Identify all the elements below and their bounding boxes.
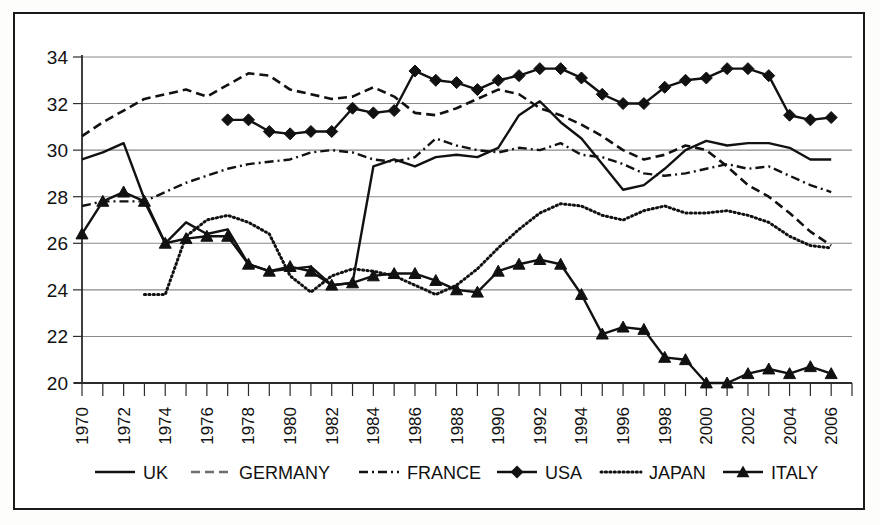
x-tick-label-group-1982: 1982 <box>323 407 342 445</box>
series-marker-usa <box>617 98 629 110</box>
x-tick-label-group-1970: 1970 <box>73 407 92 445</box>
x-tick-label-2002: 2002 <box>739 407 758 445</box>
x-tick-label-1976: 1976 <box>198 407 217 445</box>
series-marker-usa <box>451 77 463 89</box>
x-tick-label-group-1978: 1978 <box>239 407 258 445</box>
x-tick-label-1986: 1986 <box>406 407 425 445</box>
legend-label-france: FRANCE <box>407 463 481 483</box>
x-tick-label-group-1990: 1990 <box>489 407 508 445</box>
legend-label-italy: ITALY <box>771 463 818 483</box>
line-chart: 2022242628303234197019721974197619781980… <box>0 0 880 525</box>
series-line-france <box>82 139 831 207</box>
series-marker-usa <box>555 63 567 75</box>
series-marker-usa <box>305 126 317 138</box>
series-marker-usa <box>700 72 712 84</box>
legend-item-uk[interactable]: UK <box>95 463 168 483</box>
chart-screenshot: 2022242628303234197019721974197619781980… <box>0 0 880 525</box>
series-marker-usa <box>742 63 754 75</box>
series-marker-usa <box>784 109 796 121</box>
x-tick-label-group-1998: 1998 <box>656 407 675 445</box>
x-tick-label-group-1974: 1974 <box>156 407 175 445</box>
series-marker-italy <box>118 186 130 197</box>
y-tick-label-32: 32 <box>47 94 68 115</box>
series-marker-usa <box>242 114 254 126</box>
x-tick-label-2000: 2000 <box>697 407 716 445</box>
series-usa <box>222 63 838 140</box>
x-tick-label-1970: 1970 <box>73 407 92 445</box>
legend-label-japan: JAPAN <box>649 463 706 483</box>
x-tick-label-group-1996: 1996 <box>614 407 633 445</box>
chart-canvas: 2022242628303234197019721974197619781980… <box>0 0 880 525</box>
series-marker-usa <box>721 63 733 75</box>
x-tick-label-1984: 1984 <box>364 407 383 445</box>
x-tick-label-1996: 1996 <box>614 407 633 445</box>
series-marker-usa <box>471 84 483 96</box>
legend-marker-usa <box>511 466 524 479</box>
x-tick-label-group-2002: 2002 <box>739 407 758 445</box>
series-marker-italy <box>804 361 816 372</box>
series-marker-usa <box>409 65 421 77</box>
series-marker-usa <box>367 107 379 119</box>
series-marker-usa <box>388 105 400 117</box>
legend-item-japan[interactable]: JAPAN <box>601 463 706 483</box>
series-marker-usa <box>513 70 525 82</box>
series-marker-italy <box>763 363 775 374</box>
series-uk <box>82 101 831 285</box>
series-marker-usa <box>763 70 775 82</box>
x-tick-label-1990: 1990 <box>489 407 508 445</box>
series-marker-usa <box>284 128 296 140</box>
legend-item-germany[interactable]: GERMANY <box>191 463 330 483</box>
y-tick-label-34: 34 <box>47 47 69 68</box>
x-tick-label-1998: 1998 <box>656 407 675 445</box>
x-tick-label-group-1976: 1976 <box>198 407 217 445</box>
legend-label-usa: USA <box>545 463 582 483</box>
x-tick-label-2004: 2004 <box>781 407 800 445</box>
y-tick-label-24: 24 <box>47 280 69 301</box>
x-tick-label-group-2006: 2006 <box>822 407 841 445</box>
series-marker-usa <box>263 126 275 138</box>
series-france <box>82 139 831 207</box>
series-marker-usa <box>825 112 837 124</box>
x-tick-label-group-1994: 1994 <box>572 407 591 445</box>
series-marker-usa <box>430 74 442 86</box>
y-tick-label-30: 30 <box>47 140 68 161</box>
x-tick-label-1972: 1972 <box>115 407 134 445</box>
series-marker-usa <box>222 114 234 126</box>
x-tick-label-group-1992: 1992 <box>531 407 550 445</box>
legend-label-germany: GERMANY <box>239 463 330 483</box>
x-tick-label-1978: 1978 <box>239 407 258 445</box>
x-tick-label-1980: 1980 <box>281 407 300 445</box>
x-tick-label-1982: 1982 <box>323 407 342 445</box>
series-marker-usa <box>680 74 692 86</box>
x-tick-label-group-1988: 1988 <box>448 407 467 445</box>
x-tick-label-group-1984: 1984 <box>364 407 383 445</box>
series-italy <box>76 186 837 388</box>
series-marker-usa <box>534 63 546 75</box>
x-tick-label-1994: 1994 <box>572 407 591 445</box>
x-tick-label-2006: 2006 <box>822 407 841 445</box>
y-tick-label-22: 22 <box>47 326 68 347</box>
series-marker-usa <box>492 74 504 86</box>
x-tick-label-group-1972: 1972 <box>115 407 134 445</box>
y-tick-label-28: 28 <box>47 187 68 208</box>
series-marker-usa <box>804 114 816 126</box>
series-marker-italy <box>534 254 546 265</box>
x-tick-label-group-2000: 2000 <box>697 407 716 445</box>
x-tick-label-1988: 1988 <box>448 407 467 445</box>
y-tick-label-20: 20 <box>47 373 68 394</box>
x-tick-label-group-1986: 1986 <box>406 407 425 445</box>
series-germany <box>82 73 831 245</box>
series-line-usa <box>228 69 832 134</box>
x-tick-label-1974: 1974 <box>156 407 175 445</box>
x-tick-label-1992: 1992 <box>531 407 550 445</box>
legend-item-usa[interactable]: USA <box>497 463 582 483</box>
legend-label-uk: UK <box>143 463 168 483</box>
legend-item-italy[interactable]: ITALY <box>723 463 818 483</box>
legend-item-france[interactable]: FRANCE <box>359 463 481 483</box>
x-tick-label-group-2004: 2004 <box>781 407 800 445</box>
series-line-uk <box>82 101 831 285</box>
series-line-germany <box>82 73 831 245</box>
y-tick-label-26: 26 <box>47 233 68 254</box>
x-tick-label-group-1980: 1980 <box>281 407 300 445</box>
